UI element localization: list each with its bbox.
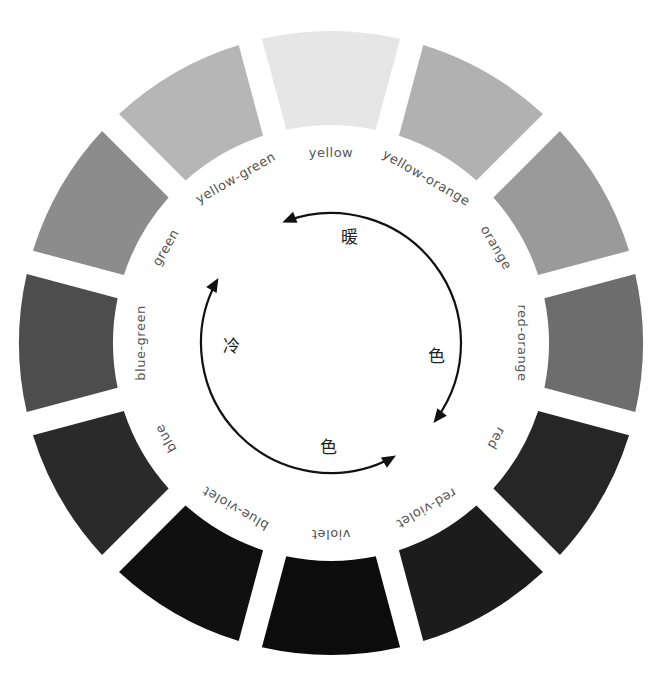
label-green: green xyxy=(149,226,182,268)
segment-red-orange xyxy=(544,274,643,412)
segment-green xyxy=(33,131,169,275)
label-red-violet: red-violet xyxy=(394,485,459,531)
label-blue: blue xyxy=(152,422,180,456)
segment-yellow-green xyxy=(119,45,263,181)
label-blue-green: blue-green xyxy=(133,305,148,380)
segment-blue-green xyxy=(19,274,118,412)
segment-violet xyxy=(262,556,400,655)
color-wheel: yellowyellow-orangeorangered-orangeredre… xyxy=(0,0,662,674)
label-violet: violet xyxy=(312,527,351,542)
cool-arrow xyxy=(201,282,392,473)
label-red: red xyxy=(484,425,508,452)
warm-char-2: 色 xyxy=(428,346,445,366)
color-segments xyxy=(19,31,643,655)
segment-orange xyxy=(493,131,629,275)
cool-char-1: 冷 xyxy=(223,336,240,356)
warm-arrowhead-end-icon xyxy=(433,408,446,423)
warm-arrowhead-icon xyxy=(282,212,297,223)
warm-char-1: 暖 xyxy=(341,227,358,247)
segment-red-violet xyxy=(399,505,543,641)
segment-red xyxy=(493,411,629,555)
temperature-arrows xyxy=(201,212,461,473)
label-red-orange: red-orange xyxy=(515,305,530,382)
segment-blue xyxy=(33,411,169,555)
segment-yellow-orange xyxy=(399,45,543,181)
segment-yellow xyxy=(262,31,400,130)
warm-arrow xyxy=(287,213,461,419)
label-orange: orange xyxy=(478,223,515,273)
cool-char-2: 色 xyxy=(320,437,337,457)
label-yellow: yellow xyxy=(309,145,354,160)
segment-labels: yellowyellow-orangeorangered-orangeredre… xyxy=(133,145,530,542)
segment-blue-violet xyxy=(119,505,263,641)
